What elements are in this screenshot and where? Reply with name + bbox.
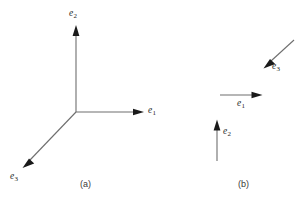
panel-a-label-e1: e1: [148, 106, 156, 116]
panel-a-label-e2-sub: 2: [74, 12, 78, 20]
panel-b-e3-shaft: [271, 40, 294, 61]
panel-b-label-e2: e2: [223, 127, 231, 137]
panel-b-label-e2-sub: 2: [228, 130, 232, 138]
panel-a-caption: (a): [80, 180, 91, 189]
panel-b-e1-arrowhead: [252, 92, 263, 99]
panel-a-vector-e2: [73, 25, 80, 112]
panel-a-label-e2: e2: [69, 9, 77, 19]
panel-b-label-e1-sub: 1: [242, 102, 246, 110]
panel-b-label-e1-base: e: [237, 98, 241, 108]
panel-b-vector-e1: [220, 92, 263, 99]
panel-a-label-e3-sub: 3: [15, 175, 19, 183]
panel-a-e2-arrowhead: [73, 25, 80, 36]
panel-a-label-e1-sub: 1: [153, 109, 157, 117]
panel-b-label-e2-base: e: [223, 126, 227, 136]
panel-a-vector-e3: [23, 112, 77, 168]
panel-a-e1-arrowhead: [133, 109, 144, 116]
figure-canvas: [0, 0, 307, 206]
panel-b-e2-arrowhead: [214, 120, 221, 131]
vector-basis-figure: e2 e1 e3 e3 e1 e2 (a) (b): [0, 0, 307, 206]
panel-b-label-e3: e3: [272, 62, 280, 72]
panel-a-vectors: [23, 25, 145, 168]
panel-b-vector-e2: [214, 120, 221, 162]
panel-b-caption: (b): [238, 180, 249, 189]
panel-b-vectors: [214, 40, 294, 161]
panel-a-label-e1-base: e: [148, 105, 152, 115]
panel-a-label-e3: e3: [10, 172, 18, 182]
panel-a-label-e2-base: e: [69, 8, 73, 18]
panel-b-label-e1: e1: [237, 99, 245, 109]
panel-b-label-e3-sub: 3: [277, 65, 281, 73]
panel-b-label-e3-base: e: [272, 61, 276, 71]
panel-a-label-e3-base: e: [10, 171, 14, 181]
panel-a-vector-e1: [76, 109, 144, 116]
panel-a-e3-shaft: [30, 112, 76, 160]
panel-a-e3-arrowhead: [23, 159, 35, 168]
